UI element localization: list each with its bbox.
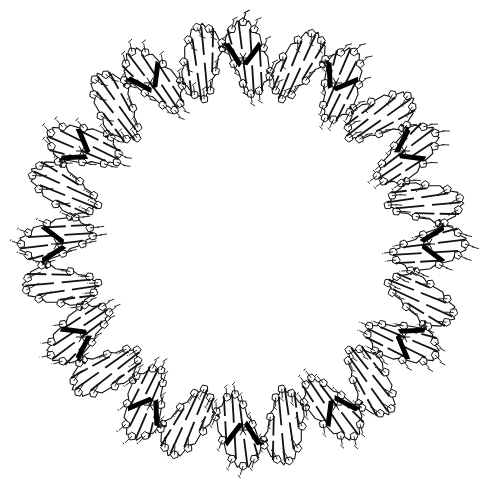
groove-cluster — [394, 127, 426, 162]
dna-ring-diagram — [0, 0, 486, 489]
groove-cluster — [126, 61, 161, 93]
groove-cluster — [60, 326, 92, 361]
dna-minicircle-figure — [0, 0, 486, 489]
base-pairs — [21, 22, 465, 466]
major-groove-bases — [40, 41, 446, 447]
groove-cluster — [325, 395, 360, 427]
sugar-phosphate-backbone — [10, 10, 479, 478]
